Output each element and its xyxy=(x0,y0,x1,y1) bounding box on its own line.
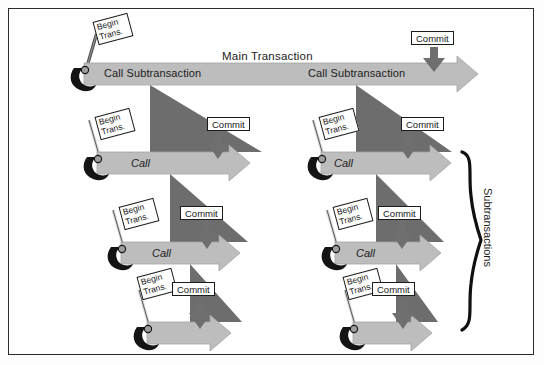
subtransactions-label: Subtransactions xyxy=(482,188,494,267)
commit-label-main: Commit xyxy=(411,31,454,45)
bar-label-call-subtransaction-left: Call Subtransaction xyxy=(104,67,201,79)
bar-label-call-l2-right: Call xyxy=(356,247,375,259)
commit-label-l3-right: Commit xyxy=(372,282,415,296)
commit-label-l2-left: Commit xyxy=(180,206,223,220)
bar-label-call-subtransaction-right: Call Subtransaction xyxy=(308,67,405,79)
commit-label-l1-right: Commit xyxy=(401,117,444,131)
commit-label-l1-left: Commit xyxy=(207,117,250,131)
main-transaction-title: Main Transaction xyxy=(222,50,313,62)
bar-label-call-l1-right: Call xyxy=(334,157,353,169)
commit-label-l3-left: Commit xyxy=(172,282,215,296)
bar-label-call-l2-left: Call xyxy=(152,247,171,259)
commit-label-l2-right: Commit xyxy=(378,206,421,220)
bar-label-call-l1-left: Call xyxy=(131,157,150,169)
subtransactions-brace xyxy=(462,152,481,330)
diagram-canvas: Main Transaction Call Subtransaction Cal… xyxy=(0,0,544,365)
